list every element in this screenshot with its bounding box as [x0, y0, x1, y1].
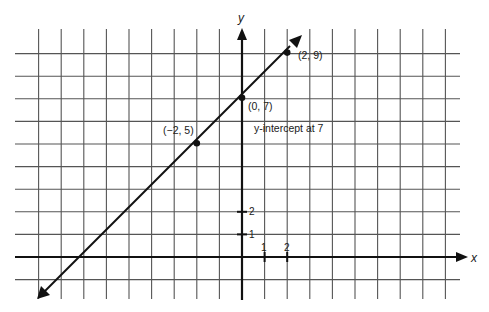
point-label-2-9: (2, 9)	[298, 49, 323, 61]
y-axis-arrow-icon	[237, 28, 247, 40]
point-0-7	[239, 95, 246, 102]
x-axis-arrow-icon	[456, 252, 468, 262]
line-arrow-up-icon	[289, 35, 302, 48]
y-axis-label: y	[237, 11, 245, 25]
y-tick-label-2: 2	[249, 206, 255, 217]
point-2-9	[284, 49, 291, 56]
point-label-neg2-5: (−2, 5)	[163, 124, 194, 136]
y-intercept-annotation: y-intercept at 7	[254, 122, 324, 134]
y-tick-label-1: 1	[249, 229, 255, 240]
x-tick-label-2: 2	[284, 242, 290, 253]
point-label-0-7: (0, 7)	[248, 100, 273, 112]
tick-marks	[237, 212, 287, 262]
point-neg2-5	[194, 140, 201, 147]
coordinate-plane: x y 1 2 1 2 (−2, 5) (0, 7) (2, 9) y-inte…	[0, 0, 489, 312]
x-tick-label-1: 1	[261, 242, 267, 253]
x-axis-label: x	[470, 251, 478, 265]
grid-lines	[15, 29, 460, 299]
